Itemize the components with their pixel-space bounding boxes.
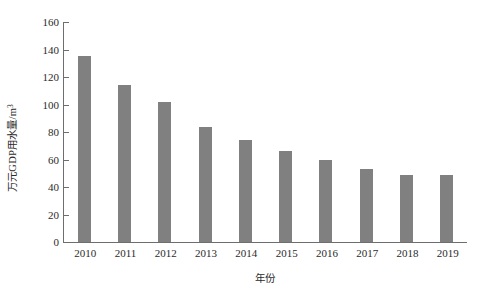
y-tick-label: 140	[43, 44, 60, 56]
x-tick-label: 2015	[276, 247, 298, 259]
bar	[199, 127, 212, 243]
x-axis-title: 年份	[63, 270, 467, 285]
x-tick-label: 2012	[155, 247, 177, 259]
y-tick-mark	[64, 105, 69, 106]
y-tick-label: 0	[54, 236, 60, 248]
y-tick-label: 80	[48, 126, 59, 138]
y-tick-label: 40	[48, 181, 59, 193]
y-axis-title-text: 万元GDP用水量/m	[4, 108, 19, 192]
bar	[118, 85, 131, 242]
y-tick-label: 120	[43, 71, 60, 83]
y-tick-label: 20	[48, 209, 59, 221]
y-tick-mark	[64, 242, 69, 243]
bar	[158, 102, 171, 242]
x-tick-label: 2018	[397, 247, 419, 259]
y-tick-mark	[64, 132, 69, 133]
bar	[78, 56, 91, 242]
bar	[400, 175, 413, 242]
x-tick-label: 2017	[356, 247, 378, 259]
bar	[319, 160, 332, 243]
chart-figure: 万元GDP用水量/m3 020406080100120140160 201020…	[0, 0, 484, 296]
x-tick-label: 2011	[115, 247, 137, 259]
y-tick-mark	[64, 215, 69, 216]
plot-area: 020406080100120140160 201020112012201320…	[63, 22, 467, 243]
bar	[279, 151, 292, 242]
y-tick-label: 160	[43, 16, 60, 28]
y-tick-label: 100	[43, 99, 60, 111]
x-tick-label: 2014	[235, 247, 257, 259]
y-tick-mark	[64, 160, 69, 161]
bar	[239, 140, 252, 242]
x-tick-label: 2013	[195, 247, 217, 259]
bar	[440, 175, 453, 242]
y-tick-mark	[64, 187, 69, 188]
y-axis-title: 万元GDP用水量/m3	[0, 0, 22, 296]
y-tick-mark	[64, 50, 69, 51]
x-tick-label: 2010	[74, 247, 96, 259]
y-tick-mark	[64, 77, 69, 78]
y-tick-label: 60	[48, 154, 59, 166]
x-tick-label: 2016	[316, 247, 338, 259]
y-tick-mark	[64, 22, 69, 23]
bar	[360, 169, 373, 242]
x-tick-label: 2019	[437, 247, 459, 259]
